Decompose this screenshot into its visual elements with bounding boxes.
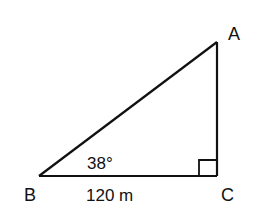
vertex-label-a: A <box>228 24 240 44</box>
triangle-diagram: A B C 38° 120 m <box>0 0 261 219</box>
angle-label-b: 38° <box>87 154 113 173</box>
vertex-label-b: B <box>24 185 36 205</box>
vertex-label-c: C <box>221 185 234 205</box>
right-angle-marker <box>199 160 217 176</box>
side-length-label-bc: 120 m <box>86 186 133 205</box>
side-ab-hypotenuse <box>39 42 217 176</box>
